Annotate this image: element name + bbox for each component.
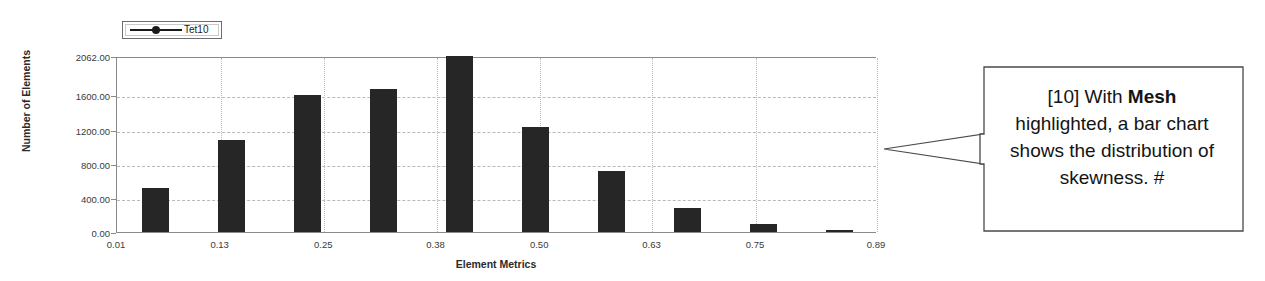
bar[interactable] <box>294 95 321 232</box>
x-axis-tick-label: 0.13 <box>210 239 229 250</box>
x-axis-tick-labels: 0.010.130.250.380.500.630.750.89 <box>116 239 876 253</box>
bar[interactable] <box>446 56 473 232</box>
chart-legend[interactable]: Tet10 <box>122 21 222 39</box>
horizontal-gridline <box>117 132 876 133</box>
legend-entry-label: Tet10 <box>184 25 208 35</box>
callout-text: [10] With Mesh highlighted, a bar chart … <box>998 83 1226 191</box>
callout-leader-line <box>884 134 984 164</box>
x-axis-tick-label: 0.38 <box>426 239 445 250</box>
x-axis-tick-label: 0.25 <box>314 239 333 250</box>
bar[interactable] <box>370 89 397 232</box>
y-axis-tick-label: 800.00 <box>81 159 110 170</box>
callout-text-prefix: [10] With <box>1048 86 1128 107</box>
y-axis-tick-mark <box>111 233 116 234</box>
y-axis-tick-labels: 0.00400.00800.001200.001600.002062.00 <box>58 57 110 233</box>
y-axis-title: Number of Elements <box>20 31 32 171</box>
bar[interactable] <box>522 127 549 232</box>
plot-inner <box>117 58 876 232</box>
vertical-gridline <box>877 58 878 232</box>
x-axis-tick-label: 0.75 <box>746 239 765 250</box>
vertical-gridline <box>652 58 653 232</box>
callout-text-emphasis: Mesh <box>1128 86 1177 107</box>
x-axis-tick-label: 0.01 <box>107 239 126 250</box>
vertical-gridline <box>324 58 325 232</box>
screenshot-root: Tet10 Number of Elements 0.00400.00800.0… <box>0 0 1265 281</box>
vertical-gridline <box>437 58 438 232</box>
y-axis-tick-label: 0.00 <box>92 228 111 239</box>
x-axis-tick-label: 0.63 <box>642 239 661 250</box>
bar[interactable] <box>674 208 701 232</box>
bar[interactable] <box>142 188 169 232</box>
plot-area <box>116 57 876 233</box>
bar-chart-figure: Tet10 Number of Elements 0.00400.00800.0… <box>0 0 960 281</box>
horizontal-gridline <box>117 97 876 98</box>
bar[interactable] <box>826 230 853 232</box>
x-axis-title: Element Metrics <box>116 258 876 270</box>
bar[interactable] <box>750 224 777 232</box>
legend-inner-frame: Tet10 <box>125 24 219 36</box>
legend-line-circle-icon <box>128 24 184 36</box>
y-axis-tick-label: 1200.00 <box>76 125 110 136</box>
bar[interactable] <box>598 171 625 232</box>
annotation-callout: [10] With Mesh highlighted, a bar chart … <box>984 67 1240 229</box>
callout-text-suffix: highlighted, a bar chart shows the distr… <box>1010 113 1214 188</box>
y-axis-tick-label: 1600.00 <box>76 91 110 102</box>
y-axis-tick-label: 400.00 <box>81 193 110 204</box>
bar[interactable] <box>218 140 245 232</box>
vertical-gridline <box>756 58 757 232</box>
x-axis-tick-label: 0.89 <box>867 239 886 250</box>
x-axis-tick-label: 0.50 <box>530 239 549 250</box>
y-axis-tick-label: 2062.00 <box>76 52 110 63</box>
